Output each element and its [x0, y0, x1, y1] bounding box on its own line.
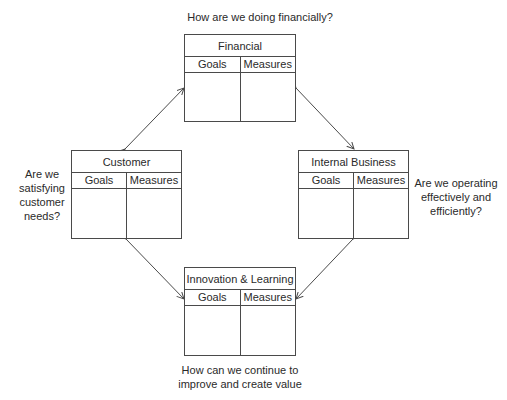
internal-business-question-line: effectively and: [408, 190, 504, 204]
customer-goals-cell: [72, 189, 127, 238]
innovation-learning-goals-cell: [185, 306, 241, 355]
arrow-customer-innovation: [126, 239, 184, 299]
arrow-financial-internal-business: [296, 88, 354, 149]
arrow-internal-business-innovation: [296, 239, 353, 299]
internal-business-question-line: Are we operating: [408, 176, 504, 190]
customer-measures-header: Measures: [127, 173, 181, 188]
innovation-learning-body: [185, 306, 295, 355]
customer-question: Are we satisfying customer needs?: [2, 167, 82, 223]
financial-goals-header: Goals: [185, 57, 241, 72]
internal-business-question: Are we operating effectively and efficie…: [408, 176, 504, 218]
financial-column-headers: Goals Measures: [185, 57, 295, 73]
customer-column-headers: Goals Measures: [72, 173, 181, 189]
internal-business-body: [299, 189, 408, 238]
financial-body: [185, 73, 295, 121]
customer-goals-header: Goals: [72, 173, 127, 188]
innovation-learning-goals-header: Goals: [185, 290, 241, 305]
customer-box: Customer Goals Measures: [71, 150, 182, 239]
innovation-learning-question-line: How can we continue to: [170, 363, 310, 377]
internal-business-measures-header: Measures: [354, 173, 408, 188]
innovation-learning-question-line: improve and create value: [170, 377, 310, 391]
innovation-learning-title: Innovation & Learning: [185, 268, 295, 290]
financial-measures-header: Measures: [241, 57, 296, 72]
innovation-learning-column-headers: Goals Measures: [185, 290, 295, 306]
innovation-learning-question: How can we continue to improve and creat…: [170, 363, 310, 391]
customer-question-line: customer: [2, 195, 82, 209]
internal-business-measures-cell: [354, 189, 408, 238]
innovation-learning-box: Innovation & Learning Goals Measures: [184, 267, 296, 356]
customer-title: Customer: [72, 151, 181, 173]
financial-title: Financial: [185, 35, 295, 57]
financial-box: Financial Goals Measures: [184, 34, 296, 122]
customer-question-line: satisfying: [2, 181, 82, 195]
financial-goals-cell: [185, 73, 241, 121]
internal-business-goals-cell: [299, 189, 354, 238]
customer-question-line: needs?: [2, 209, 82, 223]
internal-business-question-line: efficiently?: [408, 204, 504, 218]
innovation-learning-measures-header: Measures: [241, 290, 296, 305]
internal-business-goals-header: Goals: [299, 173, 354, 188]
financial-question: How are we doing financially?: [170, 10, 350, 24]
internal-business-box: Internal Business Goals Measures: [298, 150, 409, 239]
customer-body: [72, 189, 181, 238]
customer-question-line: Are we: [2, 167, 82, 181]
internal-business-title: Internal Business: [299, 151, 408, 173]
innovation-learning-measures-cell: [241, 306, 296, 355]
arrow-financial-customer: [125, 88, 184, 149]
balanced-scorecard-diagram: How are we doing financially? Financial …: [0, 0, 507, 400]
financial-measures-cell: [241, 73, 296, 121]
customer-measures-cell: [127, 189, 181, 238]
internal-business-column-headers: Goals Measures: [299, 173, 408, 189]
